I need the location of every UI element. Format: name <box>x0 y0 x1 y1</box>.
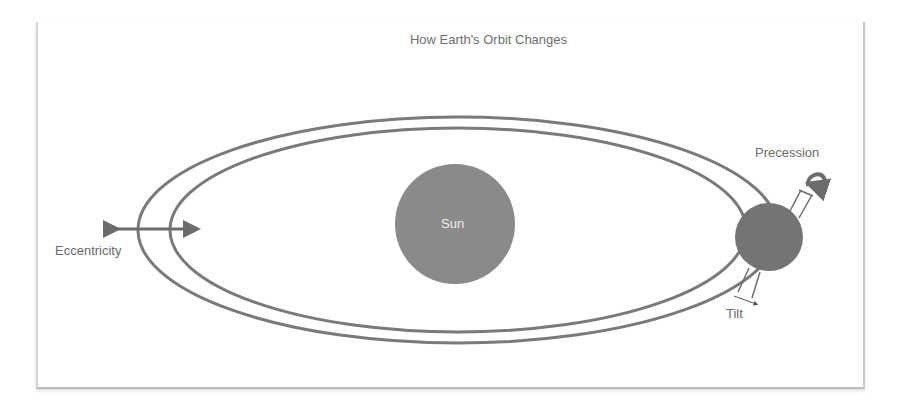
orbit-diagram <box>0 0 901 415</box>
tilt-label: Tilt <box>726 306 743 321</box>
eccentricity-label: Eccentricity <box>55 243 121 258</box>
sun-label: Sun <box>441 216 464 231</box>
precession-label: Precession <box>755 145 819 160</box>
earth <box>735 203 803 271</box>
precession-arrow-icon <box>808 174 825 186</box>
